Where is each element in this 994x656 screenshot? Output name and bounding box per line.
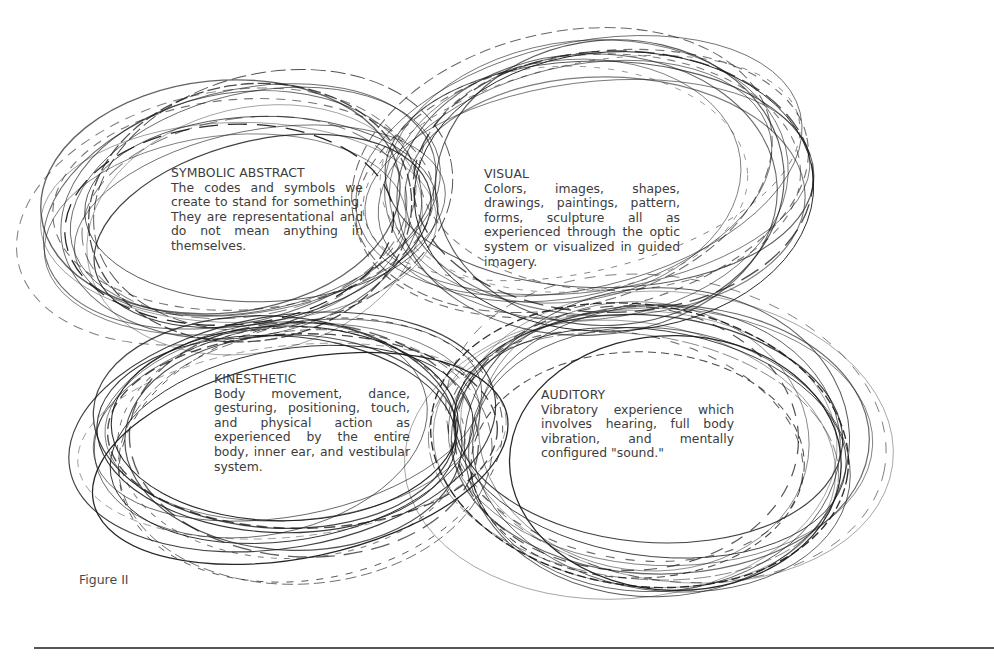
symbolic-abstract-section: SYMBOLIC ABSTRACT The codes and symbols …: [171, 166, 363, 254]
ring-diagram: [0, 0, 994, 656]
ring-stroke: [470, 351, 805, 579]
kinesthetic-section: KINESTHETIC Body movement, dance, gestur…: [214, 372, 410, 474]
visual-title: VISUAL: [484, 167, 680, 182]
auditory-title: AUDITORY: [541, 388, 734, 403]
kinesthetic-title: KINESTHETIC: [214, 372, 410, 387]
figure-caption: Figure II: [79, 572, 129, 587]
kinesthetic-description: Body movement, dance, gesturing, positio…: [214, 387, 410, 475]
visual-description: Colors, images, shapes, drawings, painti…: [484, 182, 680, 270]
auditory-section: AUDITORY Vibratory experience which invo…: [541, 388, 734, 461]
auditory-description: Vibratory experience which involves hear…: [541, 403, 734, 461]
symbolic-abstract-title: SYMBOLIC ABSTRACT: [171, 166, 363, 181]
symbolic-abstract-description: The codes and symbols we create to stand…: [171, 181, 363, 254]
ring-stroke: [507, 333, 843, 594]
visual-section: VISUAL Colors, images, shapes, drawings,…: [484, 167, 680, 269]
page-divider-rule: [34, 647, 994, 649]
